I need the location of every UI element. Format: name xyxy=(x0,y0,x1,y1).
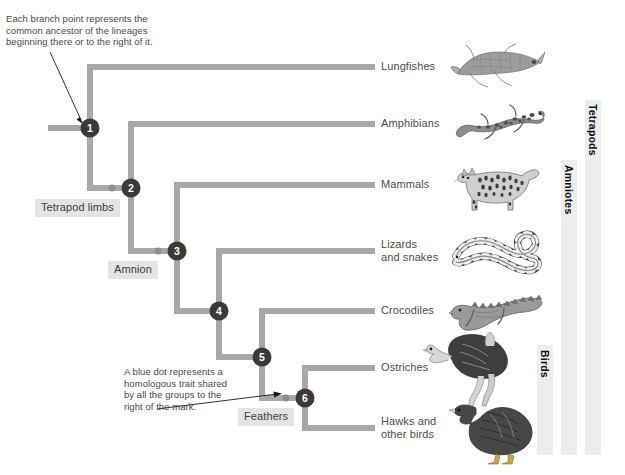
branch-point-6[interactable]: 6 xyxy=(296,389,315,408)
tip-label-amphibians[interactable]: Amphibians xyxy=(381,117,439,130)
salamander-illustration xyxy=(452,98,547,152)
snake-illustration xyxy=(450,226,542,278)
branch-point-3-label: 3 xyxy=(174,245,180,257)
tip-label-mammals[interactable]: Mammals xyxy=(381,178,429,191)
trait-label-amnion[interactable]: Amnion xyxy=(108,261,158,279)
trait-label-tetrapod-limbs[interactable]: Tetrapod limbs xyxy=(35,199,120,217)
annotation-branch-point-note: Each branch point represents the common … xyxy=(6,13,196,48)
tip-label-crocodiles[interactable]: Crocodiles xyxy=(381,304,434,317)
branch-point-5-label: 5 xyxy=(259,351,265,363)
group-label-birds: Birds xyxy=(539,350,551,378)
branch-point-2-label: 2 xyxy=(128,182,134,194)
arrow-line-branchpoint xyxy=(50,52,81,120)
branch-point-1-label: 1 xyxy=(87,122,93,134)
hawk-illustration xyxy=(446,396,538,466)
tip-label-lungfishes[interactable]: Lungfishes xyxy=(381,60,435,73)
branch-point-2[interactable]: 2 xyxy=(122,179,141,198)
group-label-tetrapods: Tetrapods xyxy=(587,104,599,156)
trait-dot-tetrapod-limbs xyxy=(109,185,116,192)
cat-illustration xyxy=(452,156,544,216)
branch-point-1[interactable]: 1 xyxy=(81,119,100,138)
tip-label-hawks-and-other-birds[interactable]: Hawks and other birds xyxy=(381,415,436,440)
annotation-blue-dot-note: A blue dot represents a homologous trait… xyxy=(124,366,264,412)
branch-point-4[interactable]: 4 xyxy=(210,302,229,321)
group-label-amniotes: Amniotes xyxy=(563,165,575,214)
branch-point-5[interactable]: 5 xyxy=(253,348,272,367)
phylogenetic-tree-diagram: 1 2 3 4 5 6 Each branch xyxy=(0,0,625,475)
branch-point-6-label: 6 xyxy=(302,392,308,404)
tip-label-lizards-and-snakes[interactable]: Lizards and snakes xyxy=(381,238,438,263)
lungfish-illustration xyxy=(450,40,545,94)
trait-dot-amnion xyxy=(155,248,162,255)
branch-point-3[interactable]: 3 xyxy=(168,242,187,261)
trait-dot-feathers xyxy=(283,395,290,402)
trait-label-feathers[interactable]: Feathers xyxy=(238,408,294,426)
branch-point-4-label: 4 xyxy=(216,305,222,317)
